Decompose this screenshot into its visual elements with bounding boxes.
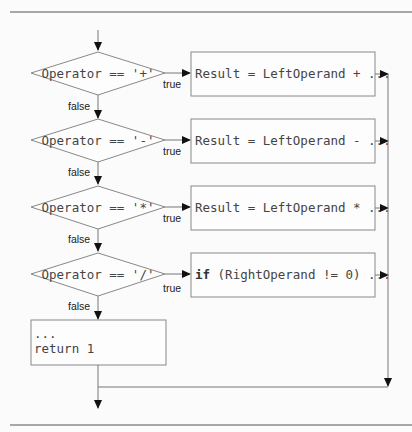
action-box-plus: Result = LeftOperand + ...: [191, 52, 391, 96]
decision-text: Operator ==: [42, 200, 132, 215]
action-box-multiply: Result = LeftOperand * ...: [191, 186, 391, 230]
action-text: (RightOperand != 0) ...: [210, 267, 391, 282]
action-text: Result = LeftOperand * ...: [195, 200, 391, 215]
true-label: true: [163, 78, 181, 90]
decision-multiply: Operator == '*': [31, 186, 165, 229]
true-label: true: [163, 145, 181, 157]
svg-text:Operator == '+': Operator == '+': [42, 66, 155, 81]
false-label: false: [68, 300, 90, 312]
decision-operator: '/': [132, 267, 155, 282]
action-text: Result = LeftOperand + ...: [195, 66, 391, 81]
svg-text:Operator == '*': Operator == '*': [42, 200, 155, 215]
decision-text: Operator ==: [42, 133, 132, 148]
false-label: false: [68, 166, 90, 178]
decision-operator: '-': [132, 133, 155, 148]
decision-operator: '+': [132, 66, 155, 81]
decision-operator: '*': [132, 200, 155, 215]
true-label: true: [163, 282, 181, 294]
decision-plus: Operator == '+': [31, 52, 165, 95]
action-box-minus: Result = LeftOperand - ...: [191, 119, 391, 163]
action-box-divide: if (RightOperand != 0) ...: [191, 253, 391, 297]
svg-text:Operator == '/': Operator == '/': [42, 267, 155, 282]
svg-text:Operator == '-': Operator == '-': [42, 133, 155, 148]
true-label: true: [163, 212, 181, 224]
action-text: Result = LeftOperand - ...: [195, 133, 391, 148]
flowchart-canvas: Operator == '+' true false Result = Left…: [0, 0, 412, 432]
decision-text: Operator ==: [42, 267, 132, 282]
decision-text: Operator ==: [42, 66, 132, 81]
default-block: ... return 1: [31, 320, 166, 365]
default-return: return 1: [34, 341, 94, 356]
svg-text:if (RightOperand != 0) ...: if (RightOperand != 0) ...: [195, 267, 391, 282]
default-ellipsis: ...: [34, 326, 57, 341]
keyword-if: if: [195, 267, 210, 282]
false-label: false: [68, 100, 90, 112]
decision-divide: Operator == '/': [31, 253, 165, 296]
false-label: false: [68, 233, 90, 245]
decision-minus: Operator == '-': [31, 119, 165, 162]
